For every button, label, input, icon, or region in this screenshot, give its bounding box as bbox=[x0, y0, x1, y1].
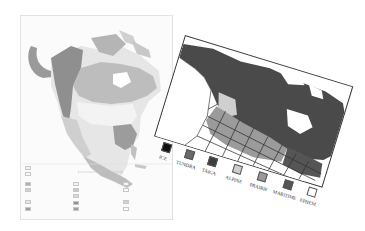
legend-label-taiga: TAIGA bbox=[201, 168, 216, 177]
legend-swatch-tundra bbox=[184, 149, 195, 160]
legend-swatch-prairie bbox=[256, 171, 267, 182]
legend-swatch-alpine bbox=[231, 164, 242, 175]
legend-label-tundra: TUNDRA bbox=[176, 160, 197, 171]
legend-swatch-ice bbox=[161, 142, 172, 153]
legend-label-prairie: PRAIRIE bbox=[249, 182, 268, 192]
legend-swatch-taiga bbox=[206, 156, 217, 167]
legend-swatch-maritime bbox=[282, 179, 293, 190]
legend-label-alpine: ALPINE bbox=[225, 175, 243, 185]
legend-swatch-ephemeral bbox=[306, 186, 317, 197]
legend-label-maritime: MARITIME bbox=[272, 189, 297, 201]
scale-bar bbox=[78, 168, 123, 176]
legend-label-ephemeral: EPHEM. bbox=[299, 198, 317, 208]
legend-label-ice: ICE bbox=[159, 155, 168, 162]
